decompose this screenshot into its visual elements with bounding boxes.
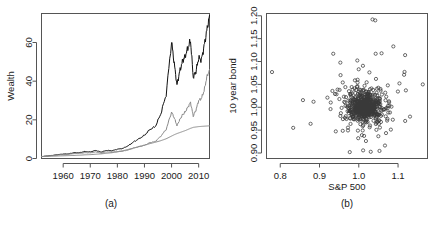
panel-b-frame (267, 14, 428, 159)
scatter-point (369, 150, 372, 153)
scatter-point-outlier (270, 70, 273, 73)
scatter-point (361, 64, 364, 67)
scatter-point (326, 96, 329, 99)
panel-b-x-tick-label: 0.9 (313, 170, 326, 181)
panel-a-y-tick-label: 0 (23, 156, 34, 161)
panel-a-x-tick-label: 1990 (134, 170, 155, 181)
scatter-point (363, 84, 366, 87)
scatter-point-outlier (374, 52, 377, 55)
scatter-point (349, 122, 352, 125)
scatter-point (386, 84, 389, 87)
panel-a-axes: 0204060196019701980199020002010 (23, 37, 209, 180)
scatter-point (374, 77, 377, 80)
scatter-point (389, 128, 392, 131)
scatter-point (375, 128, 378, 131)
scatter-point (338, 97, 341, 100)
scatter-point (361, 129, 364, 132)
scatter-point (341, 81, 344, 84)
panel-a-series-strategy-black (42, 15, 210, 156)
panel-a-y-axis-label: Wealth (5, 71, 16, 100)
scatter-point-outlier (380, 52, 383, 55)
scatter-point-outlier (392, 45, 395, 48)
panel-b-x-tick-label: 1.1 (391, 170, 404, 181)
scatter-point (391, 118, 394, 121)
scatter-point (378, 126, 381, 129)
scatter-point-outlier (404, 54, 407, 57)
panel-a-y-tick-label: 20 (23, 115, 34, 126)
scatter-point-outlier (348, 151, 351, 154)
scatter-point (398, 82, 401, 85)
scatter-point (362, 149, 365, 152)
panel-b-points-group (270, 18, 424, 154)
scatter-point (339, 61, 342, 64)
scatter-point (378, 149, 381, 152)
scatter-point (356, 59, 359, 62)
scatter-point (331, 89, 334, 92)
scatter-point (334, 130, 337, 133)
panel-b-y-tick-label: 0.90 (248, 144, 259, 163)
scatter-point (344, 96, 347, 99)
panel-b-svg: 0.900.951.001.051.101.151.200.80.91.01.1… (223, 0, 446, 226)
panel-b-caption: (b) (341, 198, 353, 209)
scatter-point (368, 71, 371, 74)
panel-b-y-tick-label: 1.15 (248, 29, 259, 48)
panel-a-series-group (42, 15, 210, 156)
scatter-point (309, 122, 312, 125)
scatter-point (385, 95, 388, 98)
panel-b-y-axis-label: 10 year bond (227, 58, 238, 113)
panel-a-series-strategy-grey-middle (42, 70, 210, 157)
panel-a-series-strategy-grey-flat (42, 126, 210, 157)
scatter-point (329, 107, 332, 110)
panel-a-x-tick-label: 1970 (80, 170, 101, 181)
figure-container: 0204060196019701980199020002010 Wealth (… (0, 0, 446, 226)
scatter-point (339, 74, 342, 77)
panel-b-y-tick-label: 1.00 (248, 98, 259, 117)
panel-a-x-tick-label: 1960 (53, 170, 74, 181)
panel-b-x-tick-label: 0.8 (274, 170, 287, 181)
scatter-point (364, 139, 367, 142)
scatter-point (356, 129, 359, 132)
panel-b-y-tick-label: 0.95 (248, 121, 259, 140)
scatter-point (365, 81, 368, 84)
panel-b-y-tick-label: 1.05 (248, 75, 259, 94)
scatter-point (396, 90, 399, 93)
panel-a-x-tick-label: 2000 (161, 170, 182, 181)
panel-a-line-chart: 0204060196019701980199020002010 Wealth (… (0, 0, 223, 226)
panel-a-x-tick-label: 1980 (107, 170, 128, 181)
scatter-point (329, 101, 332, 104)
scatter-point (340, 106, 343, 109)
scatter-point (380, 93, 383, 96)
scatter-point-outlier (421, 83, 424, 86)
panel-a-x-tick-label: 2010 (188, 170, 209, 181)
panel-b-x-tick-label: 1.0 (352, 170, 365, 181)
scatter-point-outlier (292, 126, 295, 129)
panel-b-x-axis-label: S&P 500 (328, 181, 365, 192)
panel-a-svg: 0204060196019701980199020002010 Wealth (… (0, 0, 223, 226)
scatter-point (341, 129, 344, 132)
scatter-point (372, 119, 375, 122)
scatter-point (384, 91, 387, 94)
scatter-point (312, 100, 315, 103)
panel-b-y-tick-label: 1.20 (248, 7, 259, 26)
scatter-point (343, 100, 346, 103)
panel-a-y-tick-label: 40 (23, 76, 34, 87)
scatter-point (344, 86, 347, 89)
scatter-point (357, 68, 360, 71)
panel-a-frame (42, 14, 210, 159)
scatter-point (384, 132, 387, 135)
scatter-point (377, 135, 380, 138)
scatter-point (338, 88, 341, 91)
panel-a-caption: (a) (105, 198, 117, 209)
scatter-point (357, 137, 360, 140)
panel-b-y-tick-label: 1.10 (248, 52, 259, 71)
scatter-point (383, 144, 386, 147)
panel-a-y-tick-label: 60 (23, 37, 34, 48)
scatter-point (301, 99, 304, 102)
scatter-point (404, 89, 407, 92)
panel-b-scatter-chart: 0.900.951.001.051.101.151.200.80.91.01.1… (223, 0, 446, 226)
scatter-point (384, 99, 387, 102)
scatter-point (408, 115, 411, 118)
scatter-point (384, 115, 387, 118)
scatter-point-outlier (332, 52, 335, 55)
scatter-point (404, 119, 407, 122)
